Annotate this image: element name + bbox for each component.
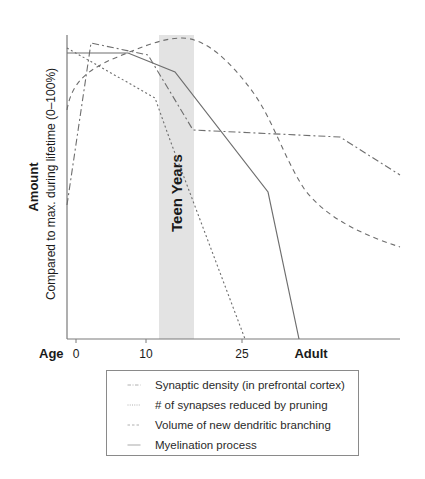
teen-years-label: Teen Years [168, 154, 185, 232]
series-pruning [67, 48, 245, 339]
legend-item-synaptic-density: Synaptic density (in prefrontal cortex) [107, 376, 345, 394]
series-dendritic-branching [67, 38, 400, 247]
y-axis-title: Amount [26, 162, 41, 212]
legend-label: Myelination process [155, 439, 257, 451]
tick-label-10: 10 [139, 347, 153, 361]
dotted-line-icon [121, 404, 147, 406]
solid-line-icon [121, 444, 147, 446]
legend-label: Volume of new dendritic branching [155, 419, 331, 431]
tick-label-adult: Adult [294, 346, 328, 361]
tick-label-25: 25 [235, 347, 249, 361]
x-axis-title: Age [39, 346, 64, 361]
legend-label: # of synapses reduced by pruning [155, 399, 328, 411]
tick-label-0: 0 [73, 347, 80, 361]
legend: Synaptic density (in prefrontal cortex) … [106, 370, 359, 456]
series-synaptic-density [67, 43, 400, 205]
dash-dot-line-icon [121, 384, 147, 386]
legend-item-myelination: Myelination process [107, 436, 257, 454]
dashed-line-icon [121, 424, 147, 426]
y-axis-subtitle: Compared to max. during lifetime (0–100%… [44, 68, 58, 300]
legend-item-pruning: # of synapses reduced by pruning [107, 396, 328, 414]
legend-label: Synaptic density (in prefrontal cortex) [155, 379, 345, 391]
legend-item-dendritic-branching: Volume of new dendritic branching [107, 416, 331, 434]
